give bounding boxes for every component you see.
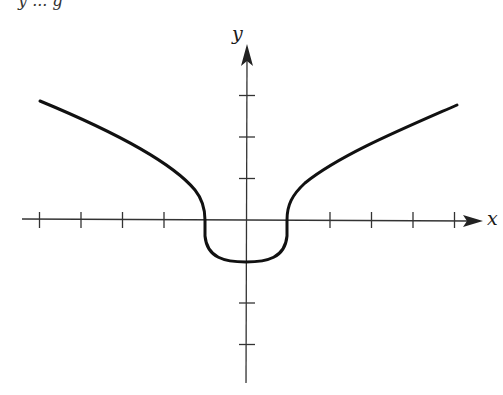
curve-line	[40, 101, 457, 262]
y-axis-label: y	[232, 22, 243, 44]
y-axis	[246, 60, 247, 383]
graph	[0, 0, 503, 395]
x-axis-label: x	[487, 207, 498, 229]
